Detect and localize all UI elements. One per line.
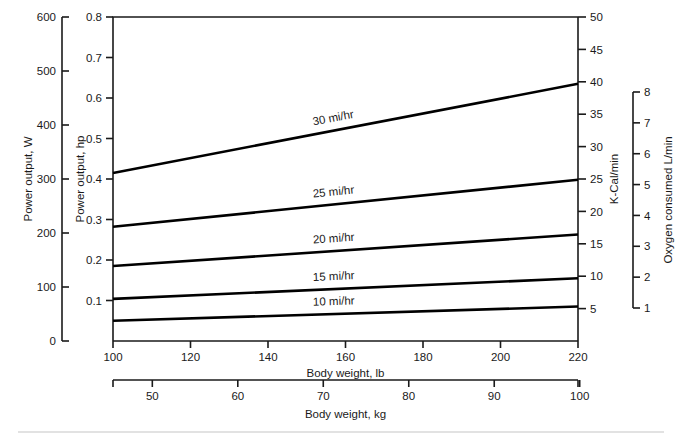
- kcal-tick-label: 15: [590, 238, 603, 250]
- oxygen-tick-label: 8: [644, 86, 650, 98]
- series-label-4: 10 mi/hr: [313, 294, 355, 307]
- hp-tick-label: 0.8: [86, 11, 102, 23]
- kcal-tick-label: 35: [590, 108, 603, 120]
- lb-tick-label: 160: [336, 351, 355, 363]
- oxygen-tick-label: 6: [644, 148, 650, 160]
- watts-tick-label: 300: [37, 173, 56, 185]
- hp-tick-label: 0.2: [86, 254, 102, 266]
- kg-tick-label: 80: [402, 390, 415, 402]
- oxygen-tick-label: 1: [644, 302, 650, 314]
- hp-tick-label: 0.7: [86, 52, 102, 64]
- hp-tick-label: 0.4: [86, 173, 103, 185]
- kg-tick-label: 90: [488, 390, 501, 402]
- oxygen-axis-title: Oxygen consumed L/min: [662, 136, 674, 263]
- oxygen-tick-label: 2: [644, 271, 650, 283]
- lb-tick-label: 120: [181, 351, 200, 363]
- kg-tick-label: 70: [317, 390, 330, 402]
- kg-tick-label: 100: [570, 390, 589, 402]
- watts-tick-label: 0: [50, 335, 56, 347]
- lb-tick-label: 200: [491, 351, 510, 363]
- lb-tick-label: 140: [258, 351, 277, 363]
- kg-tick-label: 60: [231, 390, 244, 402]
- watts-tick-label: 400: [37, 119, 56, 131]
- lb-axis-title: Body weight, lb: [307, 367, 385, 379]
- lb-tick-label: 220: [568, 351, 587, 363]
- bicycle-power-output-chart: 0100200300400500600 0.10.20.30.40.50.60.…: [0, 0, 682, 444]
- watts-tick-label: 600: [37, 11, 56, 23]
- kg-axis-title: Body weight, kg: [305, 408, 386, 420]
- hp-axis-title: Power output, hp: [74, 136, 86, 223]
- watts-tick-label: 100: [37, 281, 56, 293]
- watts-tick-label: 500: [37, 65, 56, 77]
- kcal-tick-label: 30: [590, 141, 603, 153]
- kcal-axis-title: K-Cal/min: [608, 154, 620, 204]
- watts-axis-title: Power output, W: [22, 136, 34, 221]
- kcal-tick-label: 25: [590, 173, 603, 185]
- hp-tick-label: 0.6: [86, 92, 102, 104]
- oxygen-tick-label: 3: [644, 240, 650, 252]
- kcal-tick-label: 40: [590, 76, 603, 88]
- hp-tick-label: 0.1: [86, 295, 102, 307]
- kcal-tick-label: 45: [590, 44, 603, 56]
- oxygen-tick-label: 4: [644, 210, 651, 222]
- lb-tick-label: 100: [103, 351, 122, 363]
- hp-tick-label: 0.5: [86, 133, 102, 145]
- oxygen-tick-label: 5: [644, 179, 650, 191]
- series-label-3: 15 mi/hr: [313, 269, 355, 283]
- figure-container: 0100200300400500600 0.10.20.30.40.50.60.…: [0, 0, 682, 444]
- kcal-tick-label: 10: [590, 270, 603, 282]
- hp-tick-label: 0.3: [86, 214, 102, 226]
- lb-tick-label: 180: [413, 351, 432, 363]
- kcal-tick-label: 5: [590, 303, 596, 315]
- kg-tick-label: 50: [146, 390, 159, 402]
- kcal-tick-label: 50: [590, 11, 603, 23]
- watts-tick-label: 200: [37, 227, 56, 239]
- oxygen-tick-label: 7: [644, 117, 650, 129]
- kcal-tick-label: 20: [590, 206, 603, 218]
